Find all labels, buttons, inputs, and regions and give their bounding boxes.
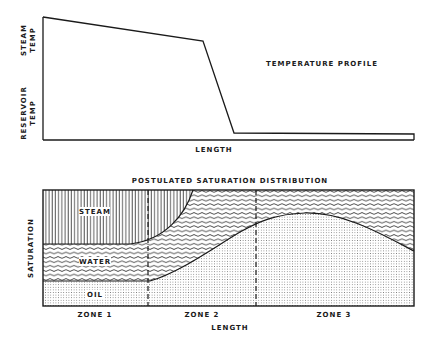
top-chart-title: TEMPERATURE PROFILE (266, 60, 378, 68)
svg-text:RESERVOIR: RESERVOIR (20, 86, 28, 140)
temperature-curve (43, 17, 414, 140)
bottom-x-label: LENGTH (211, 324, 248, 332)
y-label-steam-temp: STEAM TEMP (20, 24, 37, 56)
phase-label-water: WATER (79, 258, 111, 266)
svg-text:TEMP: TEMP (29, 100, 37, 126)
temperature-profile-chart: STEAM TEMP RESERVOIR TEMP LENGTH TEMPERA… (20, 17, 414, 154)
svg-text:TEMP: TEMP (29, 27, 37, 53)
zone-label-1: ZONE 1 (78, 311, 113, 319)
phase-label-oil: OIL (87, 291, 103, 299)
top-x-label: LENGTH (195, 146, 232, 154)
svg-text:STEAM: STEAM (20, 24, 28, 56)
zone-label-2: ZONE 2 (185, 311, 220, 319)
saturation-distribution-chart: POSTULATED SATURATION DISTRIBUTION STEAM… (27, 177, 414, 332)
bottom-chart-title: POSTULATED SATURATION DISTRIBUTION (132, 177, 328, 185)
phase-label-steam: STEAM (79, 208, 111, 216)
zone-label-3: ZONE 3 (317, 311, 352, 319)
y-label-saturation: SATURATION (27, 218, 35, 278)
diagram-canvas: STEAM TEMP RESERVOIR TEMP LENGTH TEMPERA… (0, 0, 437, 344)
svg-text:SATURATION: SATURATION (27, 218, 35, 278)
y-label-reservoir-temp: RESERVOIR TEMP (20, 86, 37, 140)
